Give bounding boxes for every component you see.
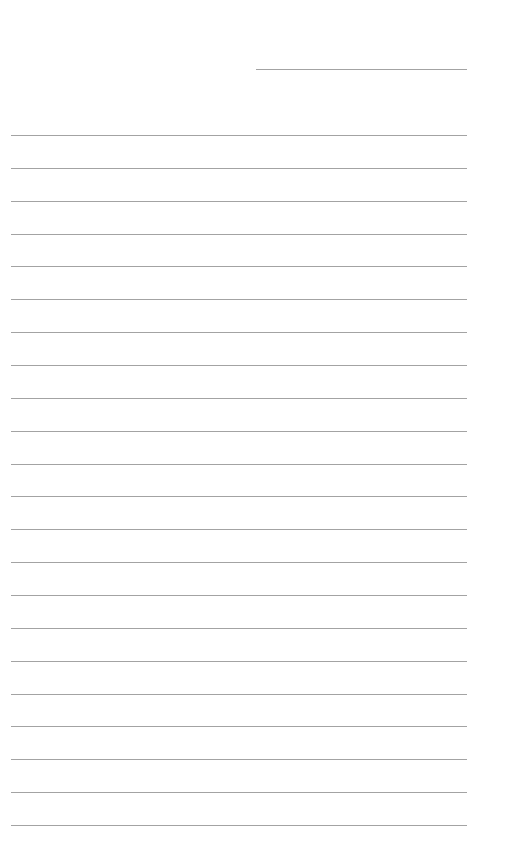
ruled-line	[11, 431, 467, 432]
ruled-line	[11, 398, 467, 399]
ruled-line	[11, 726, 467, 727]
header-date-line	[256, 69, 467, 70]
ruled-line	[11, 694, 467, 695]
ruled-line	[11, 332, 467, 333]
ruled-line	[11, 529, 467, 530]
ruled-line	[11, 759, 467, 760]
ruled-line	[11, 135, 467, 136]
ruled-line	[11, 825, 467, 826]
ruled-line	[11, 792, 467, 793]
ruled-line	[11, 201, 467, 202]
ruled-line	[11, 496, 467, 497]
ruled-line	[11, 595, 467, 596]
ruled-line	[11, 562, 467, 563]
ruled-line	[11, 168, 467, 169]
ruled-line	[11, 266, 467, 267]
ruled-line	[11, 365, 467, 366]
ruled-line	[11, 628, 467, 629]
lined-paper-page	[0, 0, 511, 866]
ruled-line	[11, 234, 467, 235]
ruled-line	[11, 661, 467, 662]
ruled-line	[11, 464, 467, 465]
ruled-line	[11, 299, 467, 300]
